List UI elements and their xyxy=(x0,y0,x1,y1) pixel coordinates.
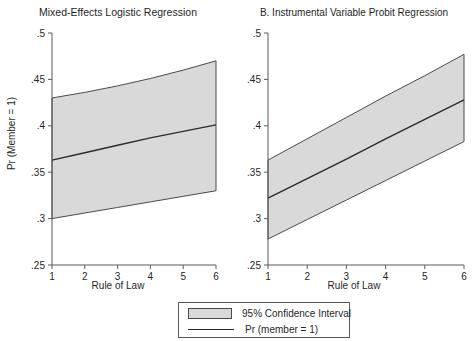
y-axis-ticks-left: .25.3.35.4.45.5 xyxy=(31,28,52,271)
figure-container: Mixed-Effects Logistic Regression Pr (Me… xyxy=(0,0,472,341)
legend-swatch-key xyxy=(185,306,234,321)
y-tick-label: .5 xyxy=(37,28,46,39)
legend-label-confidence-interval: 95% Confidence Interval xyxy=(242,308,351,319)
confidence-interval-swatch-icon xyxy=(188,308,232,319)
y-tick-label: .35 xyxy=(247,167,261,178)
y-tick-label: .3 xyxy=(253,213,262,224)
y-tick-label: .45 xyxy=(31,74,45,85)
y-tick-label: .3 xyxy=(37,213,46,224)
y-axis-ticks-right: .25.3.35.4.45.5 xyxy=(247,28,268,271)
legend-label-prediction-line: Pr (member = 1) xyxy=(245,324,318,335)
x-axis-label-left: Rule of Law xyxy=(0,280,236,291)
prediction-line-swatch-icon xyxy=(188,329,234,330)
confidence-interval-band-right xyxy=(268,54,464,239)
y-tick-label: .35 xyxy=(31,167,45,178)
y-tick-label: .4 xyxy=(37,120,46,131)
confidence-interval-band-left xyxy=(52,61,216,219)
y-tick-label: .4 xyxy=(253,120,262,131)
y-tick-label: .25 xyxy=(247,260,261,271)
legend-line-key xyxy=(185,322,237,337)
panel-instrumental-variable-probit-regression: B. Instrumental Variable Probit Regressi… xyxy=(236,0,472,300)
y-tick-label: .5 xyxy=(253,28,262,39)
x-axis-label-right: Rule of Law xyxy=(236,280,472,291)
plot-area-right: .25.3.35.4.45.5 123456 xyxy=(236,0,472,300)
legend-item-prediction-line: Pr (member = 1) xyxy=(179,321,351,338)
y-tick-label: .25 xyxy=(31,260,45,271)
legend: 95% Confidence Interval Pr (member = 1) xyxy=(178,302,350,338)
y-tick-label: .45 xyxy=(247,74,261,85)
plot-area-left: .25.3.35.4.45.5 123456 xyxy=(0,0,236,300)
panel-mixed-effects-logistic-regression: Mixed-Effects Logistic Regression Pr (Me… xyxy=(0,0,236,300)
legend-item-confidence-interval: 95% Confidence Interval xyxy=(179,305,351,322)
